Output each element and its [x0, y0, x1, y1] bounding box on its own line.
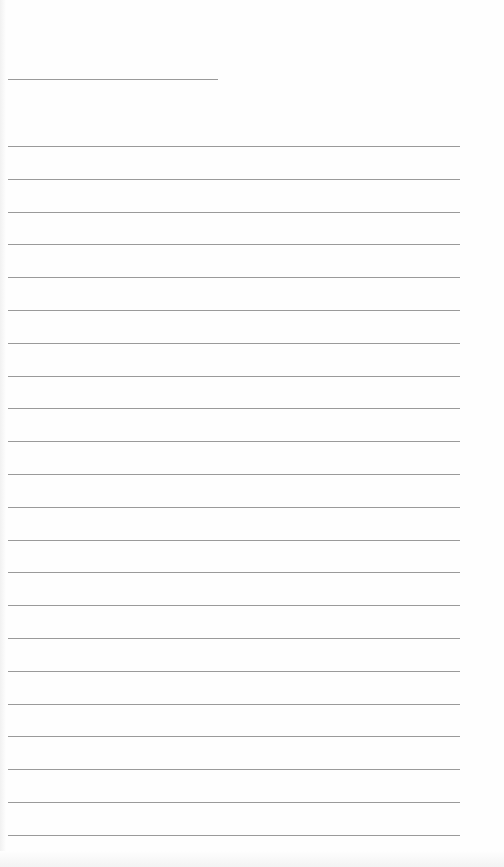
ruled-line — [8, 277, 460, 278]
ruled-line — [8, 835, 460, 836]
ruled-line — [8, 310, 460, 311]
ruled-line — [8, 376, 460, 377]
ruled-line — [8, 572, 460, 573]
ruled-line — [8, 638, 460, 639]
title-line — [8, 79, 218, 80]
ruled-line — [8, 179, 460, 180]
ruled-line — [8, 736, 460, 737]
ruled-line — [8, 605, 460, 606]
ruled-line — [8, 704, 460, 705]
ruled-line — [8, 671, 460, 672]
ruled-line — [8, 769, 460, 770]
ruled-line — [8, 244, 460, 245]
ruled-line — [8, 146, 460, 147]
ruled-line — [8, 507, 460, 508]
ruled-line — [8, 474, 460, 475]
ruled-line — [8, 212, 460, 213]
ruled-line — [8, 540, 460, 541]
lined-paper-page — [0, 0, 504, 867]
ruled-line — [8, 802, 460, 803]
ruled-line — [8, 408, 460, 409]
ruled-line — [8, 343, 460, 344]
ruled-line — [8, 441, 460, 442]
